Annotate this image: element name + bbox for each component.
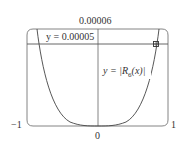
curve-label: y = |R6(x)|: [103, 66, 145, 80]
y-max-tick-label: 0.00006: [79, 16, 112, 26]
curve-label-prefix: y = |: [103, 65, 122, 76]
x-origin-tick-label: 0: [95, 131, 100, 141]
curve-label-suffix: (x)|: [132, 65, 146, 76]
threshold-line-label: y = 0.00005: [46, 32, 94, 42]
x-min-tick-label: −1: [11, 120, 22, 130]
x-max-tick-label: 1: [171, 120, 176, 130]
